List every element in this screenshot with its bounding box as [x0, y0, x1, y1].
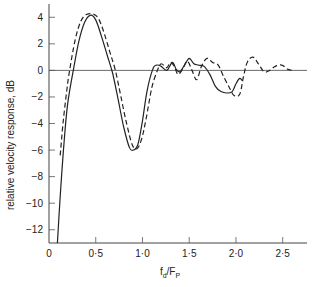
series-line-solid [57, 15, 242, 243]
x-tick-label: 2·0 [229, 248, 244, 259]
series-layer [57, 14, 292, 243]
x-tick-label: 0·5 [89, 248, 104, 259]
chart: 420−2−4−6−8−10−1200·51·01·52·02·5 relati… [0, 0, 320, 287]
x-axis-title: fd/FP [160, 266, 181, 279]
series-line-dashed [60, 14, 292, 156]
y-tick-label: −8 [32, 171, 44, 182]
axes: 420−2−4−6−8−10−1200·51·01·52·02·5 [26, 4, 307, 259]
y-tick-label: −6 [32, 145, 44, 156]
y-tick-label: 0 [37, 65, 43, 76]
y-axis-title: relative velocity response, dB [5, 80, 16, 210]
x-tick-label: 1·0 [135, 248, 150, 259]
y-tick-label: −4 [32, 118, 44, 129]
y-tick-label: −10 [26, 198, 43, 209]
x-tick-label: 2·5 [275, 248, 290, 259]
x-tick-label: 1·5 [182, 248, 197, 259]
y-tick-label: 2 [37, 38, 43, 49]
y-tick-label: 4 [37, 12, 43, 23]
y-tick-label: −2 [32, 91, 44, 102]
x-tick-label: 0 [46, 248, 52, 259]
y-tick-label: −12 [26, 224, 43, 235]
